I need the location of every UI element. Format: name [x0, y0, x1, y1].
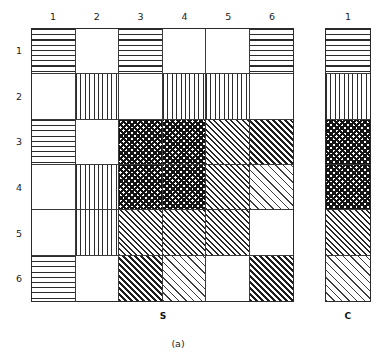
- matrix-s-cell-r5c6: [250, 210, 294, 255]
- matrix-s-cell-r1c1: [32, 29, 76, 74]
- matrix-s-cell-r5c3: [119, 210, 163, 255]
- matrix-s-column-header-1: 1: [31, 11, 75, 22]
- matrix-s-cell-r3c1: [32, 120, 76, 165]
- matrix-s-cell-r3c2: [76, 120, 120, 165]
- matrix-s-cell-r5c2: [76, 210, 120, 255]
- matrix-s-cell-r5c5: [206, 210, 250, 255]
- matrix-s-cell-r3c4: [163, 120, 207, 165]
- matrix-s-row-header-6: 6: [0, 273, 22, 284]
- matrix-s-cell-r4c1: [32, 165, 76, 210]
- matrix-s-cell-r5c4: [163, 210, 207, 255]
- matrix-s-cell-r1c6: [250, 29, 294, 74]
- matrix-s: [31, 28, 294, 302]
- matrix-s-label: S: [143, 311, 183, 321]
- matrix-s-cell-r6c2: [76, 256, 120, 301]
- matrix-s-cell-r3c6: [250, 120, 294, 165]
- matrix-s-cell-r2c4: [163, 74, 207, 119]
- matrix-s-cell-r1c4: [163, 29, 207, 74]
- matrix-s-column-header-6: 6: [250, 11, 294, 22]
- matrix-s-cell-r1c5: [206, 29, 250, 74]
- matrix-s-cell-r4c2: [76, 165, 120, 210]
- matrix-c-cell-r1c1: [326, 29, 370, 74]
- matrix-s-cell-r2c2: [76, 74, 120, 119]
- matrix-s-cell-r3c3: [119, 120, 163, 165]
- matrix-s-cell-r2c5: [206, 74, 250, 119]
- figure-caption: (a): [158, 338, 198, 349]
- matrix-s-cell-r4c5: [206, 165, 250, 210]
- matrix-s-cell-r2c1: [32, 74, 76, 119]
- matrix-s-cell-r2c6: [250, 74, 294, 119]
- matrix-c-label: C: [328, 311, 368, 321]
- matrix-s-row-header-2: 2: [0, 91, 22, 102]
- matrix-s-cell-r6c3: [119, 256, 163, 301]
- matrix-s-row-header-4: 4: [0, 182, 22, 193]
- matrix-s-cell-r2c3: [119, 74, 163, 119]
- matrix-s-cell-r1c2: [76, 29, 120, 74]
- matrix-c-cell-r6c1: [326, 256, 370, 301]
- matrix-s-column-header-2: 2: [75, 11, 119, 22]
- matrix-s-cell-r4c3: [119, 165, 163, 210]
- matrix-s-cell-r3c5: [206, 120, 250, 165]
- matrix-c-cell-r5c1: [326, 210, 370, 255]
- matrix-s-column-header-3: 3: [119, 11, 163, 22]
- matrix-c-cell-r4c1: [326, 165, 370, 210]
- matrix-s-cell-r4c4: [163, 165, 207, 210]
- matrix-s-cell-r6c4: [163, 256, 207, 301]
- figure-root: 1 2 3 4 5 6 1 2 3 4 5 6 1: [0, 0, 387, 353]
- matrix-c: [325, 28, 371, 302]
- matrix-s-cell-r5c1: [32, 210, 76, 255]
- matrix-s-row-header-3: 3: [0, 136, 22, 147]
- matrix-s-row-header-1: 1: [0, 45, 22, 56]
- matrix-c-column-header-1: 1: [325, 11, 371, 22]
- matrix-s-column-header-4: 4: [163, 11, 207, 22]
- matrix-s-column-header-5: 5: [206, 11, 250, 22]
- matrix-s-cell-r6c6: [250, 256, 294, 301]
- matrix-s-cell-r6c5: [206, 256, 250, 301]
- matrix-s-cell-r1c3: [119, 29, 163, 74]
- matrix-c-cell-r2c1: [326, 74, 370, 119]
- matrix-s-row-header-5: 5: [0, 228, 22, 239]
- matrix-s-cell-r4c6: [250, 165, 294, 210]
- matrix-s-cell-r6c1: [32, 256, 76, 301]
- matrix-c-cell-r3c1: [326, 120, 370, 165]
